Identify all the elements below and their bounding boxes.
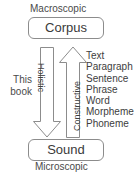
node-sound-label: Sound: [47, 143, 85, 157]
annotation-this-book-line1: This: [1, 74, 32, 86]
arrow-holistic-down: [34, 48, 61, 138]
list-item: Paragraph: [86, 61, 134, 72]
list-item: Morpheme: [86, 106, 134, 117]
list-item: Sentence: [86, 73, 134, 84]
linguistic-unit-list: Text Paragraph Sentence Phrase Word Morp…: [86, 50, 134, 129]
arrow-caption-holistic: Holistic: [36, 63, 46, 92]
list-item: Phoneme: [86, 118, 134, 129]
annotation-this-book-line2: book: [1, 86, 32, 98]
annotation-this-book: This book: [1, 74, 32, 98]
arrow-caption-constructive: Constructive: [72, 81, 82, 131]
list-item: Text: [86, 50, 134, 61]
list-item: Word: [86, 95, 134, 106]
list-item: Phrase: [86, 84, 134, 95]
node-sound[interactable]: Sound: [28, 139, 104, 161]
scale-label-microscopic: Microscopic: [35, 161, 88, 173]
diagram-canvas: Macroscopic Corpus Holistic Constructive…: [0, 0, 140, 180]
